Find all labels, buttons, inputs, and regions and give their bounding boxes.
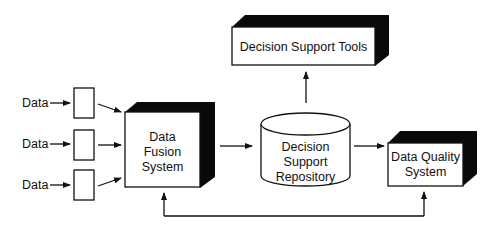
buffer-arrow-1 xyxy=(98,104,121,112)
fusion-label-line3: System xyxy=(142,160,184,174)
repository-label-line3: Repository xyxy=(276,170,336,184)
quality-label-line2: System xyxy=(405,165,447,179)
diagram-canvas: Data Data Data Data Fusion System Decisi… xyxy=(0,0,498,236)
fusion-label-line1: Data xyxy=(149,130,175,144)
input-label-2: Data xyxy=(22,137,48,151)
repository-label-line1: Decision xyxy=(282,140,330,154)
feedback-loop-connector xyxy=(164,192,424,216)
repository-label-line2: Support xyxy=(284,155,328,169)
buffer-arrow-3 xyxy=(98,178,121,186)
input-buffer-box-1 xyxy=(74,88,94,118)
decision-support-repository-cylinder: Decision Support Repository xyxy=(261,113,350,186)
input-buffer-box-3 xyxy=(74,170,94,200)
data-fusion-system-box: Data Fusion System xyxy=(125,102,215,188)
input-buffer-box-2 xyxy=(74,130,94,160)
decision-support-tools-box: Decision Support Tools xyxy=(232,15,389,66)
input-label-1: Data xyxy=(22,96,48,110)
input-label-3: Data xyxy=(22,178,48,192)
fusion-label-line2: Fusion xyxy=(144,145,182,159)
quality-label-line1: Data Quality xyxy=(391,150,461,164)
tools-label: Decision Support Tools xyxy=(240,40,368,54)
data-quality-system-box: Data Quality System xyxy=(388,131,477,186)
